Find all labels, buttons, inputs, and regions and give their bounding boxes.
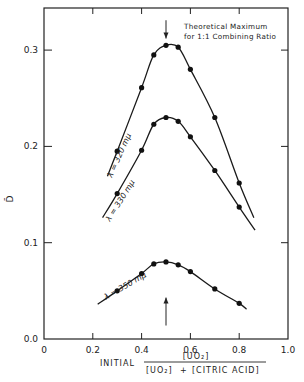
y-tick-label: 0.1 bbox=[24, 238, 38, 248]
data-markers bbox=[115, 43, 242, 306]
data-point bbox=[237, 301, 242, 306]
annotation-line1: Theoretical Maximum bbox=[183, 22, 268, 31]
data-point bbox=[139, 85, 144, 90]
x-tick-label: 0.2 bbox=[86, 345, 100, 355]
y-tick-label: 0.2 bbox=[24, 141, 38, 151]
axis-ticks bbox=[44, 8, 288, 339]
data-point bbox=[237, 180, 242, 185]
x-tick-label: 0.4 bbox=[134, 345, 149, 355]
x-axis-label-plus: + bbox=[180, 366, 188, 375]
x-axis-label-denominator-a: [UO₂] bbox=[146, 366, 173, 375]
y-tick-label: 0.3 bbox=[24, 45, 38, 55]
data-point bbox=[237, 204, 242, 209]
data-point bbox=[188, 269, 193, 274]
arrow-up-icon bbox=[164, 298, 169, 304]
x-axis-label-numerator: [UO₂] bbox=[183, 352, 210, 361]
x-axis-label-prefix: INITIAL bbox=[100, 359, 135, 368]
data-point bbox=[176, 119, 181, 124]
plot-frame bbox=[44, 8, 288, 339]
data-point bbox=[151, 261, 156, 266]
data-point bbox=[163, 259, 168, 264]
data-point bbox=[151, 52, 156, 57]
y-axis-label-text: D̄ bbox=[4, 195, 15, 202]
curve-label-330: λ = 330 mμ bbox=[104, 178, 137, 224]
annotation-line2: for 1:1 Combining Ratio bbox=[184, 32, 276, 41]
data-point bbox=[176, 262, 181, 267]
max-arrows bbox=[164, 20, 169, 325]
x-axis-label-denominator-b: [CITRIC ACID] bbox=[192, 366, 260, 375]
data-point bbox=[151, 122, 156, 127]
curve-label-350: λ = 350 mμ bbox=[102, 270, 148, 302]
y-tick-label: 0.0 bbox=[24, 334, 39, 344]
data-point bbox=[176, 45, 181, 50]
data-curves bbox=[98, 44, 255, 309]
data-point bbox=[163, 115, 168, 120]
x-tick-label: 0.8 bbox=[232, 345, 247, 355]
y-axis-label: D̄ bbox=[4, 195, 15, 202]
data-point bbox=[188, 134, 193, 139]
data-point bbox=[188, 67, 193, 72]
job-plot-chart: 00.20.40.60.81.00.00.10.20.3 λ = 320 mμ … bbox=[0, 0, 304, 382]
arrow-down-icon bbox=[164, 33, 169, 39]
data-point bbox=[139, 148, 144, 153]
data-point bbox=[212, 115, 217, 120]
axis-tick-labels: 00.20.40.60.81.00.00.10.20.3 bbox=[24, 45, 296, 355]
x-tick-label: 0 bbox=[41, 345, 47, 355]
data-point bbox=[163, 43, 168, 48]
data-point bbox=[212, 168, 217, 173]
x-tick-label: 1.0 bbox=[281, 345, 296, 355]
data-point bbox=[212, 286, 217, 291]
